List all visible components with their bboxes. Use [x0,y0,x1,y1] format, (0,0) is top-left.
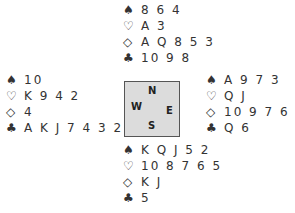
south-hearts: ♡10 8 7 6 5 [123,158,222,174]
spade-icon: ♠ [206,72,224,88]
club-icon: ♣ [206,120,224,136]
diamond-icon: ◇ [6,104,24,120]
west-clubs-cards: A K J 7 4 3 2 [24,121,123,135]
north-spades-cards: 8 6 4 [141,3,182,17]
club-icon: ♣ [123,50,141,66]
north-diamonds: ◇A Q 8 5 3 [123,34,215,50]
east-clubs-cards: Q 6 [224,121,251,135]
north-clubs: ♣10 9 8 [123,50,215,66]
south-diamonds: ◇K J [123,174,222,190]
compass-south-label: S [148,120,155,131]
north-hearts-cards: A 3 [141,19,167,33]
heart-icon: ♡ [206,88,224,104]
north-spades: ♠8 6 4 [123,2,215,18]
east-clubs: ♣Q 6 [206,120,295,136]
south-diamonds-cards: K J [141,175,162,189]
diamond-icon: ◇ [206,104,224,120]
compass-box: N W E S [124,81,180,137]
south-hearts-cards: 10 8 7 6 5 [141,159,222,173]
compass-west-label: W [131,101,142,112]
west-hand: ♠10 ♡K 9 4 2 ◇4 ♣A K J 7 4 3 2 [6,72,123,136]
club-icon: ♣ [123,190,141,206]
spade-icon: ♠ [123,2,141,18]
club-icon: ♣ [6,120,24,136]
west-spades-cards: 10 [24,73,43,87]
west-diamonds: ◇4 [6,104,123,120]
heart-icon: ♡ [123,18,141,34]
south-hand: ♠K Q J 5 2 ♡10 8 7 6 5 ◇K J ♣5 [123,142,222,206]
north-clubs-cards: 10 9 8 [141,51,191,65]
spade-icon: ♠ [6,72,24,88]
east-spades: ♠A 9 7 3 [206,72,295,88]
north-hearts: ♡A 3 [123,18,215,34]
east-hand: ♠A 9 7 3 ♡Q J ◇10 9 7 6 2 ♣Q 6 [206,72,295,136]
west-hearts: ♡K 9 4 2 [6,88,123,104]
east-spades-cards: A 9 7 3 [224,73,281,87]
west-spades: ♠10 [6,72,123,88]
east-hearts: ♡Q J [206,88,295,104]
diamond-icon: ◇ [123,34,141,50]
diamond-icon: ◇ [123,174,141,190]
south-spades-cards: K Q J 5 2 [141,143,210,157]
east-diamonds-cards: 10 9 7 6 2 [224,105,295,119]
north-diamonds-cards: A Q 8 5 3 [141,35,215,49]
south-spades: ♠K Q J 5 2 [123,142,222,158]
spade-icon: ♠ [123,142,141,158]
east-diamonds: ◇10 9 7 6 2 [206,104,295,120]
north-hand: ♠8 6 4 ♡A 3 ◇A Q 8 5 3 ♣10 9 8 [123,2,215,66]
south-clubs: ♣5 [123,190,222,206]
west-diamonds-cards: 4 [24,105,34,119]
west-clubs: ♣A K J 7 4 3 2 [6,120,123,136]
east-hearts-cards: Q J [224,89,247,103]
compass-east-label: E [166,105,173,116]
compass-north-label: N [148,85,156,96]
heart-icon: ♡ [6,88,24,104]
heart-icon: ♡ [123,158,141,174]
south-clubs-cards: 5 [141,191,151,205]
west-hearts-cards: K 9 4 2 [24,89,80,103]
